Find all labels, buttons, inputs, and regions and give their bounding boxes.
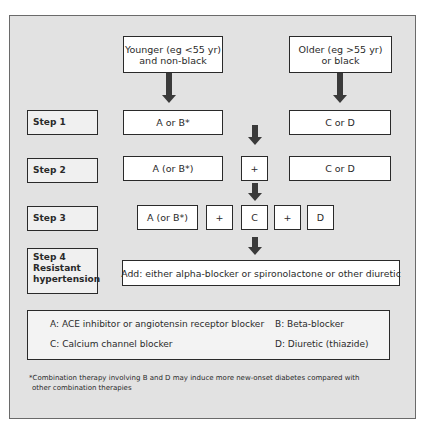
- step-4-label-line2: Resistant: [33, 263, 81, 274]
- step-4-label: Step 4 Resistant hypertension: [27, 248, 98, 294]
- footnote-line2: other combination therapies: [29, 384, 399, 394]
- arrow-down-icon: [248, 125, 262, 147]
- footnote: *Combination therapy involving B and D m…: [29, 374, 399, 393]
- younger-group-line2: and non-black: [139, 55, 206, 66]
- arrow-down-icon: [248, 237, 262, 257]
- arrow-down-icon: [162, 73, 176, 103]
- arrow-down-icon: [248, 183, 262, 203]
- step-2-plus-box: +: [241, 156, 268, 181]
- step-3-plus-box-2: +: [274, 205, 301, 230]
- step-3-plus-box-1: +: [206, 205, 233, 230]
- legend-b: B: Beta-blocker: [275, 319, 344, 329]
- step-1-c-or-d-box: C or D: [289, 110, 391, 135]
- step-3-label: Step 3: [27, 206, 98, 231]
- legend-a: A: ACE inhibitor or angiotensin receptor…: [50, 319, 264, 329]
- step-4-label-line3: hypertension: [33, 274, 100, 285]
- step-4-label-line1: Step 4: [33, 252, 66, 263]
- legend-box: A: ACE inhibitor or angiotensin receptor…: [27, 310, 390, 360]
- younger-group-line1: Younger (eg <55 yr): [125, 44, 221, 55]
- footnote-line1: *Combination therapy involving B and D m…: [29, 374, 399, 384]
- step-2-label: Step 2: [27, 158, 98, 183]
- legend-c: C: Calcium channel blocker: [50, 339, 173, 349]
- step-1-label: Step 1: [27, 110, 98, 135]
- legend-d: D: Diuretic (thiazide): [275, 339, 369, 349]
- step-3-c-box: C: [241, 205, 268, 230]
- arrow-down-icon: [333, 73, 347, 103]
- step-4-add-box: Add: either alpha-blocker or spironolact…: [122, 260, 400, 286]
- step-2-a-or-b-box: A (or B*): [123, 156, 223, 181]
- older-group-line1: Older (eg >55 yr): [299, 44, 383, 55]
- older-group-line2: or black: [322, 55, 360, 66]
- older-group-box: Older (eg >55 yr) or black: [289, 36, 392, 73]
- step-3-d-box: D: [307, 205, 334, 230]
- younger-group-box: Younger (eg <55 yr) and non-black: [123, 36, 223, 73]
- step-1-a-or-b-box: A or B*: [123, 110, 223, 135]
- step-2-c-or-d-box: C or D: [289, 156, 391, 181]
- step-3-a-or-b-box: A (or B*): [137, 205, 198, 230]
